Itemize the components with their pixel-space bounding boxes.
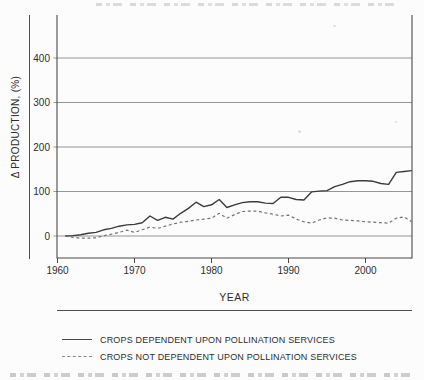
dashed-line-swatch bbox=[62, 356, 92, 357]
x-tick-label-1960: 1960 bbox=[46, 265, 69, 276]
y-tick-label-200: 200 bbox=[33, 142, 50, 153]
legend: CROPS DEPENDENT UPON POLLINATION SERVICE… bbox=[62, 332, 357, 366]
y-tick-label-300: 300 bbox=[33, 97, 50, 108]
chart-plot-area: 010020030040019601970198019902000 bbox=[0, 0, 424, 380]
legend-item-dependent-crops: CROPS DEPENDENT UPON POLLINATION SERVICE… bbox=[62, 332, 357, 347]
x-axis-label: YEAR bbox=[57, 291, 412, 303]
scan-artifact-bottom-caption bbox=[10, 373, 414, 377]
y-tick-label-100: 100 bbox=[33, 186, 50, 197]
x-axis-outer-rule bbox=[57, 310, 412, 311]
legend-label: CROPS DEPENDENT UPON POLLINATION SERVICE… bbox=[100, 335, 335, 345]
legend-item-nondependent-crops: CROPS NOT DEPENDENT UPON POLLINATION SER… bbox=[62, 349, 357, 364]
scan-speck bbox=[395, 121, 397, 123]
solid-line-swatch bbox=[62, 339, 92, 340]
x-tick-label-1980: 1980 bbox=[200, 265, 223, 276]
legend-label: CROPS NOT DEPENDENT UPON POLLINATION SER… bbox=[100, 352, 357, 362]
series-line-not-dependent bbox=[65, 211, 412, 238]
x-tick-label-1970: 1970 bbox=[123, 265, 146, 276]
scan-speck bbox=[333, 25, 336, 27]
series-line-dependent bbox=[65, 171, 412, 236]
x-tick-label-1990: 1990 bbox=[277, 265, 300, 276]
scan-speck bbox=[298, 130, 301, 133]
y-tick-label-0: 0 bbox=[44, 231, 50, 242]
x-tick-label-2000: 2000 bbox=[354, 265, 377, 276]
y-tick-label-400: 400 bbox=[33, 53, 50, 64]
figure-container: Δ PRODUCTION, (%) 0100200300400196019701… bbox=[0, 0, 424, 380]
